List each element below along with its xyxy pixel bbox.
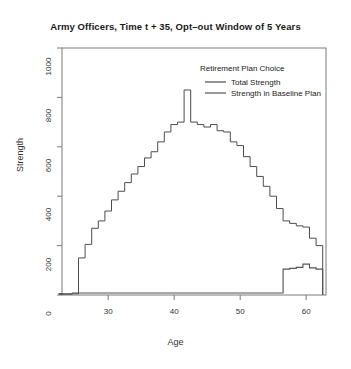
series-line-0	[59, 90, 323, 295]
chart-figure: Army Officers, Time t + 35, Opt–out Wind…	[0, 0, 351, 369]
plot-area	[0, 0, 351, 369]
legend-title: Retirement Plan Choice	[200, 64, 284, 73]
series-line-1	[59, 264, 323, 295]
legend-entry-label: Total Strength	[231, 78, 280, 87]
legend-entry-label: Strength in Baseline Plan	[231, 89, 321, 98]
plot-frame	[62, 48, 326, 295]
